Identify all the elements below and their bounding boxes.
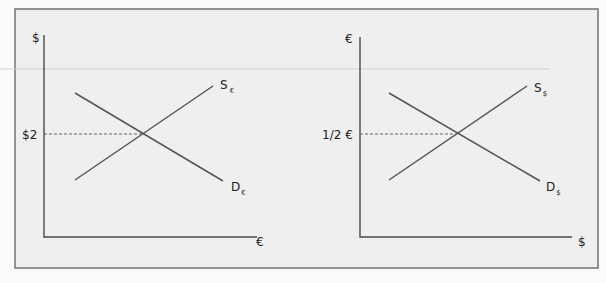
right-x-axis-label: $ [578,235,586,249]
left-y-axis-label: $ [32,31,40,45]
left-x-axis-label: € [256,235,264,249]
figure-frame [15,9,598,268]
exchange-rate-diagram: $ € $2 S€ D€ € $ 1/2 € S$ D$ [0,0,606,283]
left-price-label: $2 [22,128,37,142]
right-price-label: 1/2 € [322,128,353,142]
right-y-axis-label: € [345,32,353,46]
